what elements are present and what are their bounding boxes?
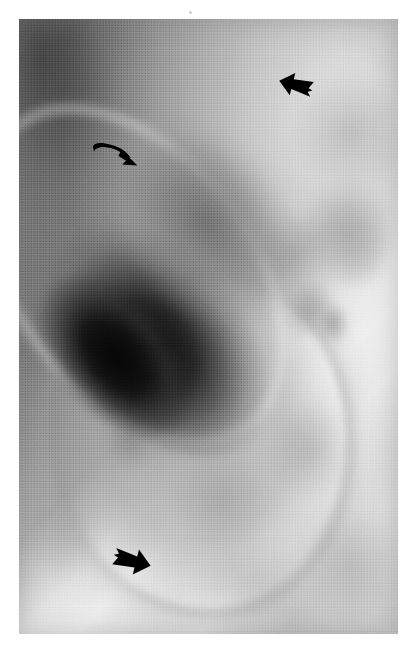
figure-page: [0, 0, 416, 656]
plate-vignette: [19, 19, 398, 634]
solid-block-arrow-icon: [278, 70, 314, 100]
dust-speck-mark: [189, 11, 192, 14]
radiograph-plate: [19, 19, 398, 634]
curved-arrow-icon: [92, 138, 144, 178]
solid-block-arrow-icon: [112, 545, 152, 577]
